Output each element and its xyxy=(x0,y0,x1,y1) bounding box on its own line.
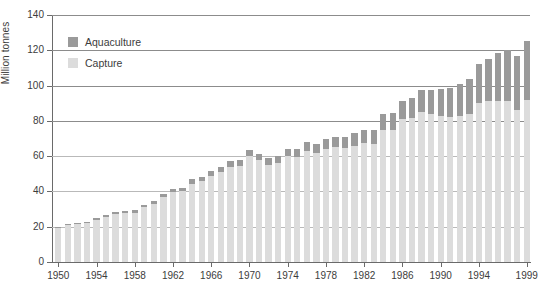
x-tick-label-1954: 1954 xyxy=(77,270,117,281)
bar-1962[interactable] xyxy=(170,189,176,262)
bar-segment-capture xyxy=(294,157,300,262)
bar-segment-aquaculture xyxy=(294,149,300,157)
bar-segment-capture xyxy=(218,172,224,262)
bar-1984[interactable] xyxy=(380,114,386,262)
y-tick-label-20: 20 xyxy=(0,222,44,232)
bar-1994[interactable] xyxy=(476,64,482,262)
bar-1967[interactable] xyxy=(218,167,224,262)
bar-segment-aquaculture xyxy=(122,211,128,213)
bar-1986[interactable] xyxy=(399,101,405,262)
bar-1977[interactable] xyxy=(313,144,319,262)
bar-segment-aquaculture xyxy=(265,158,271,165)
y-tick-label-80: 80 xyxy=(0,116,44,126)
bar-1992[interactable] xyxy=(457,84,463,262)
bar-1954[interactable] xyxy=(93,218,99,262)
bar-segment-aquaculture xyxy=(457,84,463,116)
x-tick-mark-1954 xyxy=(97,262,98,267)
bar-segment-aquaculture xyxy=(218,167,224,172)
bar-1978[interactable] xyxy=(323,139,329,262)
y-tick-mark-140 xyxy=(47,15,52,16)
legend-item-aquaculture[interactable]: Aquaculture xyxy=(68,31,141,52)
bar-1987[interactable] xyxy=(409,98,415,262)
x-tick-label-1990: 1990 xyxy=(421,270,461,281)
legend-label-capture: Capture xyxy=(85,57,122,69)
bar-segment-aquaculture xyxy=(304,142,310,150)
x-axis-line xyxy=(52,262,531,263)
bar-1976[interactable] xyxy=(304,142,310,262)
bar-1982[interactable] xyxy=(361,130,367,262)
bar-1971[interactable] xyxy=(256,154,262,263)
bar-segment-aquaculture xyxy=(170,189,176,193)
bar-1957[interactable] xyxy=(122,211,128,262)
bar-segment-aquaculture xyxy=(189,179,195,183)
bar-1973[interactable] xyxy=(275,156,281,262)
x-tick-mark-1999 xyxy=(527,262,528,267)
bar-1956[interactable] xyxy=(112,212,118,262)
bar-segment-aquaculture xyxy=(485,59,491,101)
bar-1991[interactable] xyxy=(447,88,453,262)
bar-1983[interactable] xyxy=(371,130,377,262)
bar-segment-capture xyxy=(55,228,61,262)
bar-1979[interactable] xyxy=(332,137,338,262)
bar-segment-aquaculture xyxy=(55,227,61,228)
x-tick-mark-1982 xyxy=(364,262,365,267)
bar-1966[interactable] xyxy=(208,171,214,262)
bar-1980[interactable] xyxy=(342,137,348,262)
bar-1964[interactable] xyxy=(189,179,195,262)
bar-1981[interactable] xyxy=(351,133,357,262)
bar-1959[interactable] xyxy=(141,204,147,262)
bar-segment-aquaculture xyxy=(112,212,118,214)
bar-segment-aquaculture xyxy=(74,223,80,224)
y-tick-label-140: 140 xyxy=(0,10,44,20)
bar-segment-aquaculture xyxy=(84,222,90,224)
bar-1970[interactable] xyxy=(246,150,252,262)
legend-item-capture[interactable]: Capture xyxy=(68,52,141,73)
bar-segment-capture xyxy=(371,144,377,262)
x-tick-mark-1966 xyxy=(211,262,212,267)
bar-segment-capture xyxy=(361,143,367,262)
bar-segment-capture xyxy=(495,101,501,262)
x-tick-mark-1978 xyxy=(326,262,327,267)
bar-segment-aquaculture xyxy=(151,201,157,204)
bar-segment-aquaculture xyxy=(428,90,434,114)
bar-1989[interactable] xyxy=(428,90,434,262)
bar-segment-aquaculture xyxy=(275,156,281,163)
bar-1960[interactable] xyxy=(151,201,157,262)
bar-1985[interactable] xyxy=(390,113,396,262)
bar-1952[interactable] xyxy=(74,223,80,262)
x-tick-mark-1958 xyxy=(135,262,136,267)
bar-1995[interactable] xyxy=(485,59,491,262)
bar-1999[interactable] xyxy=(524,41,530,262)
bar-segment-aquaculture xyxy=(132,210,138,212)
bar-segment-capture xyxy=(476,103,482,262)
bar-1955[interactable] xyxy=(103,215,109,262)
legend-swatch-aquaculture xyxy=(68,37,78,47)
bar-1968[interactable] xyxy=(227,161,233,262)
bar-1975[interactable] xyxy=(294,149,300,262)
bar-1961[interactable] xyxy=(160,194,166,262)
bar-1972[interactable] xyxy=(265,158,271,262)
x-tick-label-1966: 1966 xyxy=(191,270,231,281)
y-tick-mark-100 xyxy=(47,86,52,87)
bar-1988[interactable] xyxy=(418,90,424,262)
bar-1974[interactable] xyxy=(285,149,291,262)
bar-1951[interactable] xyxy=(65,224,71,262)
y-tick-mark-20 xyxy=(47,227,52,228)
bar-1996[interactable] xyxy=(495,53,501,262)
bar-1950[interactable] xyxy=(55,227,61,262)
bar-1965[interactable] xyxy=(199,177,205,262)
bar-1993[interactable] xyxy=(466,79,472,262)
bar-segment-aquaculture xyxy=(447,88,453,117)
bar-segment-capture xyxy=(199,181,205,262)
bar-1997[interactable] xyxy=(504,50,510,262)
y-tick-mark-80 xyxy=(47,121,52,122)
bar-1990[interactable] xyxy=(438,89,444,262)
bar-1998[interactable] xyxy=(514,56,520,262)
bar-segment-aquaculture xyxy=(351,133,357,145)
bar-1969[interactable] xyxy=(237,160,243,262)
x-tick-label-1978: 1978 xyxy=(306,270,346,281)
y-tick-label-40: 40 xyxy=(0,186,44,196)
bar-1953[interactable] xyxy=(84,222,90,262)
bar-1958[interactable] xyxy=(132,210,138,262)
bar-1963[interactable] xyxy=(179,188,185,262)
